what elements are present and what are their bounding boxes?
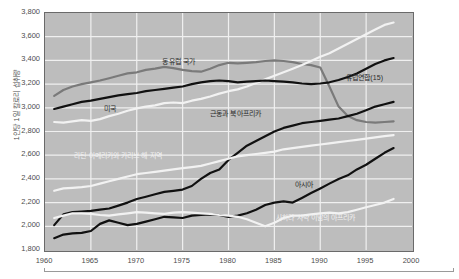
x-tick-label: 1985 bbox=[253, 256, 293, 265]
x-tick-label: 1995 bbox=[345, 256, 385, 265]
y-tick-label: 3,200 bbox=[8, 79, 40, 87]
y-axis-tick-labels: 1,8002,0002,2002,4002,6002,8003,0003,200… bbox=[6, 0, 40, 279]
series-label-6: 사하라 사막 이남의 아프리카 bbox=[276, 212, 355, 222]
y-tick-label: 2,800 bbox=[8, 127, 40, 135]
series-line-4 bbox=[54, 135, 393, 191]
plot-area: 동유럽 국가유럽연합(15)미국근동과 북아프리카라틴 아메리카와 카리브 해 … bbox=[44, 12, 414, 252]
y-tick-label: 2,000 bbox=[8, 221, 40, 229]
series-label-1: 유럽연합(15) bbox=[346, 72, 383, 82]
x-tick-label: 1980 bbox=[208, 256, 248, 265]
y-tick-label: 3,000 bbox=[8, 103, 40, 111]
x-tick-label: 1975 bbox=[162, 256, 202, 265]
x-tick-label: 1960 bbox=[24, 256, 64, 265]
x-tick-label: 1965 bbox=[70, 256, 110, 265]
series-label-5: 아시아 bbox=[295, 179, 313, 189]
y-tick-label: 2,600 bbox=[8, 150, 40, 158]
axis-base-rule bbox=[44, 271, 454, 272]
x-tick-label: 2000 bbox=[391, 256, 431, 265]
chart-figure: 1인당 1일 칼로리 섭취량 1,8002,0002,2002,4002,600… bbox=[0, 0, 459, 279]
y-tick-label: 3,600 bbox=[8, 32, 40, 40]
series-canvas bbox=[45, 13, 412, 250]
series-label-3: 근동과 북아프리카 bbox=[210, 108, 261, 118]
series-label-0: 동유럽 국가 bbox=[162, 56, 195, 66]
y-tick-label: 3,400 bbox=[8, 55, 40, 63]
y-tick-label: 3,800 bbox=[8, 8, 40, 16]
x-axis-tick-labels: 196019651970197519801985199019952000 bbox=[0, 256, 459, 268]
y-tick-label: 1,800 bbox=[8, 245, 40, 253]
series-label-2: 미국 bbox=[104, 103, 116, 113]
y-tick-label: 2,400 bbox=[8, 174, 40, 182]
x-tick-label: 1990 bbox=[299, 256, 339, 265]
series-label-4: 라틴 아메리카와 카리브 해 지역 bbox=[74, 150, 161, 160]
series-line-3 bbox=[54, 102, 393, 225]
y-tick-label: 2,200 bbox=[8, 198, 40, 206]
x-tick-label: 1970 bbox=[116, 256, 156, 265]
series-line-5 bbox=[54, 148, 393, 238]
